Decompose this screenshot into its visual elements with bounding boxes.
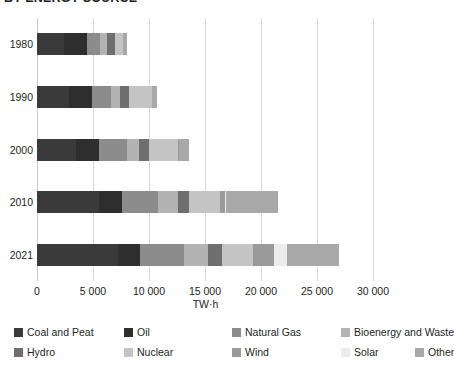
bar-row [37,139,189,161]
bar-segment [99,191,123,213]
bar-row [37,33,127,55]
bar-segment [111,86,120,108]
category-label-2000: 2000 [10,144,33,156]
legend-item-hydro[interactable]: Hydro [14,347,55,358]
bar-segment [118,244,140,266]
legend-swatch-icon [341,328,350,337]
legend-label: Other [428,347,454,358]
legend-item-wind[interactable]: Wind [232,347,269,358]
legend-swatch-icon [232,348,241,357]
bar-segment [37,244,118,266]
legend-item-other[interactable]: Other [415,347,454,358]
legend-item-natural-gas[interactable]: Natural Gas [232,327,301,338]
category-label-1980: 1980 [10,38,33,50]
legend-swatch-icon [124,328,133,337]
bar-segment [189,191,220,213]
bar-segment [87,33,99,55]
legend-swatch-icon [14,348,23,357]
x-tick-label-15000: 15 000 [189,285,221,297]
bar-segment [64,33,88,55]
bar-segment [37,139,76,161]
bar-segment [120,86,129,108]
category-label-2010: 2010 [10,196,33,208]
bar-segment [92,86,112,108]
x-tick-label-5000: 5 000 [80,285,106,297]
legend-item-nuclear[interactable]: Nuclear [124,347,173,358]
bar-segment [123,33,127,55]
chart-legend: Coal and PeatOilNatural GasBioenergy and… [14,327,429,365]
category-label-1990: 1990 [10,91,33,103]
legend-swatch-icon [341,348,350,357]
bar-series-group [37,18,373,281]
legend-label: Bioenergy and Waste [354,327,454,338]
bar-row [37,86,157,108]
bar-segment [122,191,158,213]
x-tick-label-10000: 10 000 [133,285,165,297]
bar-segment [127,139,139,161]
legend-label: Solar [354,347,379,358]
legend-swatch-icon [14,328,23,337]
legend-label: Wind [245,347,269,358]
bar-segment [179,139,189,161]
page-title: BY ENERGY SOURCE [4,0,137,5]
bar-segment [37,191,99,213]
legend-item-oil[interactable]: Oil [124,327,150,338]
category-label-2021: 2021 [10,249,33,261]
legend-item-solar[interactable]: Solar [341,347,379,358]
bar-segment [69,86,91,108]
bar-segment [37,86,69,108]
x-axis-title: TW·h [0,298,439,310]
bar-row [37,244,339,266]
x-tick-label-0: 0 [34,285,40,297]
legend-swatch-icon [232,328,241,337]
bar-segment [99,139,127,161]
legend-label: Oil [137,327,150,338]
x-tick-label-25000: 25 000 [301,285,333,297]
bar-segment [253,244,274,266]
legend-label: Coal and Peat [27,327,94,338]
bar-segment [129,86,151,108]
legend-label: Natural Gas [245,327,301,338]
bar-segment [158,191,178,213]
legend-item-bioenergy-and-waste[interactable]: Bioenergy and Waste [341,327,454,338]
bar-segment [100,33,107,55]
bar-row [37,191,278,213]
bar-segment [152,86,157,108]
legend-swatch-icon [124,348,133,357]
bar-segment [287,244,340,266]
x-axis-title-text: TW·h [193,298,219,310]
bar-segment [115,33,123,55]
bar-segment [178,191,190,213]
bar-segment [222,244,253,266]
legend-label: Nuclear [137,347,173,358]
bar-segment [107,33,115,55]
bar-segment [140,244,184,266]
bar-segment [139,139,149,161]
bar-segment [274,244,286,266]
bar-segment [37,33,64,55]
bar-segment [149,139,178,161]
legend-item-coal-and-peat[interactable]: Coal and Peat [14,327,94,338]
bar-segment [208,244,221,266]
x-tick-label-20000: 20 000 [245,285,277,297]
bar-segment [184,244,209,266]
gridline-30000 [373,18,374,281]
category-axis-labels: 19801990200020102021 [0,18,33,281]
bar-segment [76,139,99,161]
legend-label: Hydro [27,347,55,358]
value-axis: 05 00010 00015 00020 00025 00030 000 [37,281,373,297]
bar-segment [226,191,278,213]
x-tick-label-30000: 30 000 [357,285,389,297]
legend-swatch-icon [415,348,424,357]
plot-area [37,18,373,281]
